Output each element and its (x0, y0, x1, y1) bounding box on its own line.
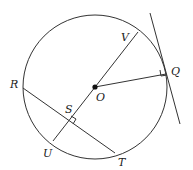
geometry-diagram: O V Q R S U T (0, 0, 193, 170)
label-s: S (65, 103, 73, 116)
label-o: O (96, 91, 105, 104)
label-v: V (121, 31, 130, 44)
center-point-o (92, 84, 97, 89)
label-u: U (43, 147, 53, 160)
label-r: R (9, 78, 18, 91)
radius-oq (95, 74, 166, 87)
label-q: Q (171, 65, 180, 78)
label-t: T (118, 156, 127, 169)
